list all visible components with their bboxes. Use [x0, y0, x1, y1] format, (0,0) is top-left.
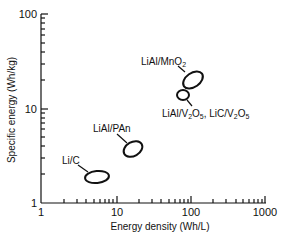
x-tick-1000: 1000	[253, 206, 277, 218]
leader-lial-v2o5	[187, 100, 192, 106]
x-tick-10: 10	[111, 206, 123, 218]
x-tick-1: 1	[38, 206, 44, 218]
label-lial-pan: LiAl/PAn	[93, 123, 131, 134]
label-li-c: Li/C	[62, 155, 80, 166]
leader-li-c	[78, 165, 88, 172]
y-tick-100: 100	[19, 8, 37, 20]
region-lial-v2o5	[177, 90, 189, 100]
region-li-c	[84, 170, 109, 184]
chart: 100 10 1 1 10 100 1000 Energy density (W…	[0, 0, 287, 234]
y-axis-label: Specific energy (Wh/kg)	[6, 57, 17, 163]
leader-lial-pan	[117, 134, 127, 143]
y-tick-1: 1	[31, 197, 37, 209]
x-tick-100: 100	[182, 206, 200, 218]
label-lial-v2o5-lic-v2o5: LiAl/V2O5, LiC/V2O5	[162, 108, 249, 120]
label-lial-mno2: LiAl/MnO2	[141, 56, 186, 68]
y-tick-10: 10	[25, 103, 37, 115]
x-axis-label: Energy density (Wh/L)	[111, 221, 210, 232]
